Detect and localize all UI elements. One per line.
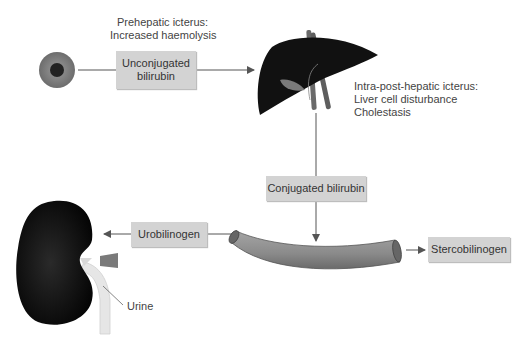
prehepatic-label-line1: Prehepatic icterus: — [117, 16, 208, 29]
urobilinogen-label: Urobilinogen — [138, 228, 200, 241]
conjugated-label: Conjugated bilirubin — [267, 182, 364, 195]
unconjugated-bilirubin-box: Unconjugated bilirubin — [116, 51, 196, 89]
conjugated-bilirubin-box: Conjugated bilirubin — [266, 176, 366, 201]
urine-label: Urine — [127, 300, 153, 313]
unconjugated-line1: Unconjugated — [122, 57, 190, 70]
unconjugated-line2: bilirubin — [137, 70, 175, 83]
diagram-graphics — [0, 0, 530, 351]
red-blood-cell-icon — [39, 52, 75, 88]
urobilinogen-box: Urobilinogen — [131, 222, 207, 247]
stercobilinogen-box: Stercobilinogen — [428, 237, 510, 262]
intrahepatic-label-line2: Liver cell disturbance — [354, 93, 457, 106]
kidney-icon — [16, 201, 118, 334]
intestine-icon — [227, 229, 403, 269]
intrahepatic-label-line3: Cholestasis — [354, 106, 411, 119]
prehepatic-label-line2: Increased haemolysis — [110, 29, 216, 42]
intrahepatic-label-line1: Intra-post-hepatic icterus: — [354, 80, 478, 93]
stercobilinogen-label: Stercobilinogen — [431, 243, 507, 256]
